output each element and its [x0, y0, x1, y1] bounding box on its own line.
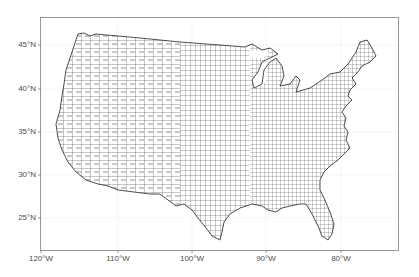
y-tick-label-45n: 45°N	[4, 40, 36, 49]
y-tick-label-30n: 30°N	[4, 170, 36, 179]
x-tick-label-80w: 80°W	[321, 254, 361, 263]
x-tick-label-90w: 90°W	[246, 254, 286, 263]
map-figure: 45°N 40°N 35°N 30°N 25°N 120°W 110°W 100…	[0, 0, 419, 277]
map-plot	[0, 0, 419, 277]
x-tick-label-110w: 110°W	[98, 254, 138, 263]
x-tick-label-120w: 120°W	[21, 254, 61, 263]
y-tick-label-35n: 35°N	[4, 127, 36, 136]
x-tick-label-100w: 100°W	[172, 254, 212, 263]
y-tick-label-40n: 40°N	[4, 84, 36, 93]
y-tick-label-25n: 25°N	[4, 213, 36, 222]
